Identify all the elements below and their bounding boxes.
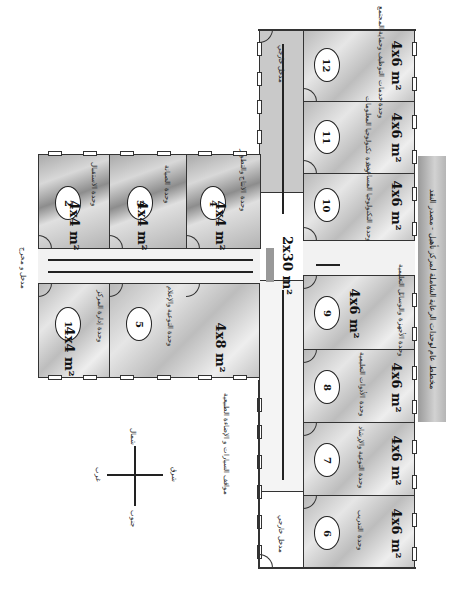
- window: [412, 327, 417, 341]
- room-6-number: 6: [314, 516, 340, 550]
- window: [257, 72, 262, 86]
- room-5-area: 4x8 m²: [213, 323, 228, 373]
- room-11-label: وحدة تكنولوجيا المعلومات: [364, 96, 372, 171]
- window: [257, 130, 262, 144]
- compass-horizontal: [107, 474, 163, 476]
- room-3-label: وحدة الصيانة: [163, 165, 171, 202]
- title-banner: مخطط عام لوحدات الرعاية الشاملة لمركز تأ…: [418, 156, 446, 422]
- window: [412, 293, 417, 307]
- window: [412, 547, 417, 561]
- corridor-arrow-down: [282, 290, 284, 480]
- top-entrance-label: مدخل خارجي: [262, 60, 300, 68]
- room-7-label: وحدة التوعية والإرشاد: [357, 426, 365, 488]
- window: [120, 375, 134, 380]
- window: [233, 151, 247, 156]
- outer-wall-top: [258, 29, 416, 31]
- window: [157, 375, 171, 380]
- compass-vertical: [134, 446, 136, 506]
- outside-label: مواقف السيارات و الإضاءة الطبيعية: [175, 440, 277, 448]
- compass-north: شمال: [129, 428, 137, 445]
- window: [48, 151, 62, 156]
- compass-east: شرق: [170, 467, 178, 482]
- room-4-area: 4x4 m²: [213, 201, 228, 251]
- room-5-label: وحدة التوعية والإعلام: [166, 286, 174, 346]
- outer-wall-bottom: [258, 567, 416, 569]
- window: [120, 151, 134, 156]
- window: [412, 513, 417, 527]
- window: [198, 375, 212, 380]
- window: [412, 366, 417, 380]
- window: [412, 77, 417, 91]
- room-9-label: وحدة الأجهزة والوسائل التعليمية: [397, 264, 405, 356]
- corridor-area-label: 2x30 m²: [258, 258, 317, 273]
- hall-arrow-right: [48, 259, 253, 261]
- room-10-label: وحدة التكنولوجيا المساعدة: [365, 163, 373, 240]
- bottom-entrance-label: مدخل خارجي: [262, 530, 300, 538]
- room-8-label: وحدة الأدوات التعليمية: [358, 352, 366, 415]
- window: [412, 42, 417, 56]
- window: [257, 42, 262, 56]
- window: [83, 375, 97, 380]
- side-entrance-label: مدخل و مخرج: [2, 264, 44, 272]
- window: [157, 151, 171, 156]
- compass-south: جنوب: [129, 510, 137, 527]
- window: [48, 375, 62, 380]
- room-12-label: وحدة خدمات التوظيف وحماية المجتمع: [377, 6, 385, 118]
- room-2-area: 4x4 m²: [67, 201, 82, 251]
- window: [198, 151, 212, 156]
- window: [412, 187, 417, 201]
- room-1-label: وحدة إدارة المركز: [96, 290, 104, 342]
- room-6-area: 4x6 m²: [389, 509, 404, 559]
- window: [233, 375, 247, 380]
- outer-wall-left: [258, 380, 260, 568]
- window: [412, 400, 417, 414]
- room-1-area: 4x4 m²: [62, 327, 77, 377]
- compass-west: غرب: [94, 467, 102, 482]
- hall-arrow-left: [48, 271, 253, 273]
- room-4-label: وحدة الانتاج والتطوير: [239, 149, 247, 210]
- window: [412, 440, 417, 454]
- window: [412, 150, 417, 164]
- room-3-area: 4x4 m²: [135, 201, 150, 251]
- entrance-door-bottom: [259, 554, 273, 568]
- window: [83, 151, 97, 156]
- entry-arrow: [316, 264, 340, 266]
- window: [412, 475, 417, 489]
- window: [412, 115, 417, 129]
- room-6-label: وحدة التدريب: [356, 510, 364, 549]
- window: [412, 222, 417, 236]
- title-text: مخطط عام لوحدات الرعاية الشاملة لمركز تأ…: [428, 189, 437, 389]
- window: [257, 100, 262, 114]
- horizontal-corridor: [38, 249, 260, 283]
- room-2-label: وحدة الاستقبال: [90, 162, 98, 206]
